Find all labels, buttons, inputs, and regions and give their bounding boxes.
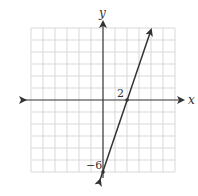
y-axis-label: y — [98, 6, 106, 20]
x-intercept-point — [125, 98, 129, 102]
coordinate-graph: x y 2 −6 — [0, 0, 198, 196]
x-axis-label: x — [188, 93, 195, 107]
x-intercept-label: 2 — [117, 87, 124, 100]
y-intercept-label: −6 — [86, 159, 102, 172]
